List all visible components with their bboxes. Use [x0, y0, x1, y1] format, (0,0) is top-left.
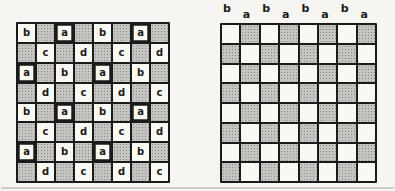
shaded-cell: [94, 123, 111, 141]
shaded-cell: [94, 84, 111, 102]
shaded-cell: [151, 24, 168, 42]
shaded-cell: [319, 25, 336, 43]
light-cell: [300, 25, 317, 43]
light-cell: [222, 104, 239, 122]
letter-cell-d: d: [75, 123, 92, 141]
shaded-cell: [132, 44, 149, 62]
light-cell: [222, 65, 239, 83]
letter-cell-b: b: [56, 64, 73, 82]
letter-cell-b: b: [18, 104, 35, 122]
letter-cell-b: b: [94, 104, 111, 122]
shaded-cell: [113, 104, 130, 122]
shaded-cell: [37, 64, 54, 82]
letter-cell-d: d: [113, 163, 130, 181]
shaded-cell: [338, 84, 355, 102]
light-cell: [241, 45, 258, 63]
shaded-cell: [75, 143, 92, 161]
letter-cell-a: a: [56, 104, 73, 122]
light-cell: [338, 25, 355, 43]
letter-cell-c: c: [37, 123, 54, 141]
shaded-cell: [300, 163, 317, 181]
light-cell: [280, 124, 297, 142]
letter-cell-d: d: [37, 84, 54, 102]
letter-cell-a: a: [56, 24, 73, 42]
light-cell: [300, 65, 317, 83]
letter-cell-b: b: [56, 143, 73, 161]
shaded-cell: [132, 163, 149, 181]
letter-cell-b: b: [18, 24, 35, 42]
shaded-cell: [222, 163, 239, 181]
light-cell: [319, 45, 336, 63]
light-cell: [261, 104, 278, 122]
light-cell: [300, 104, 317, 122]
letter-cell-b: b: [132, 143, 149, 161]
shaded-cell: [56, 84, 73, 102]
shaded-cell: [280, 104, 297, 122]
light-cell: [241, 124, 258, 142]
shaded-cell: [280, 144, 297, 162]
letter-cell-d: d: [151, 44, 168, 62]
shaded-cell: [18, 163, 35, 181]
light-cell: [300, 144, 317, 162]
shaded-cell: [56, 44, 73, 62]
shaded-cell: [18, 84, 35, 102]
shaded-cell: [113, 143, 130, 161]
letter-cell-c: c: [75, 84, 92, 102]
shaded-cell: [280, 65, 297, 83]
letter-cell-c: c: [37, 44, 54, 62]
shaded-cell: [37, 24, 54, 42]
book-figure-page: babacdcdababdcdcbabacdcdababdcdc bababab…: [0, 0, 395, 191]
light-cell: [261, 144, 278, 162]
letter-cell-c: c: [75, 163, 92, 181]
shaded-cell: [37, 143, 54, 161]
light-cell: [280, 84, 297, 102]
shaded-cell: [75, 24, 92, 42]
page-rule-line: [1, 187, 394, 189]
light-cell: [338, 104, 355, 122]
light-cell: [261, 65, 278, 83]
right-board: [220, 23, 377, 183]
shaded-cell: [261, 45, 278, 63]
light-cell: [358, 45, 375, 63]
shaded-cell: [151, 143, 168, 161]
shaded-cell: [132, 123, 149, 141]
shaded-cell: [358, 65, 375, 83]
column-label-b: b: [217, 2, 237, 21]
shaded-cell: [94, 163, 111, 181]
letter-cell-a: a: [18, 64, 35, 82]
letter-cell-c: c: [151, 84, 168, 102]
letter-cell-d: d: [113, 84, 130, 102]
letter-cell-d: d: [37, 163, 54, 181]
shaded-cell: [18, 44, 35, 62]
shaded-cell: [261, 124, 278, 142]
letter-cell-b: b: [132, 64, 149, 82]
shaded-cell: [261, 84, 278, 102]
shaded-cell: [338, 124, 355, 142]
shaded-cell: [222, 84, 239, 102]
shaded-cell: [358, 104, 375, 122]
shaded-cell: [18, 123, 35, 141]
left-board: babacdcdababdcdcbabacdcdababdcdc: [16, 22, 170, 183]
shaded-cell: [113, 64, 130, 82]
shaded-cell: [56, 163, 73, 181]
light-cell: [319, 84, 336, 102]
light-cell: [358, 124, 375, 142]
shaded-cell: [358, 144, 375, 162]
letter-cell-c: c: [113, 44, 130, 62]
light-cell: [319, 163, 336, 181]
light-cell: [280, 163, 297, 181]
letter-cell-a: a: [132, 104, 149, 122]
light-cell: [338, 65, 355, 83]
light-cell: [261, 25, 278, 43]
letter-cell-c: c: [113, 123, 130, 141]
shaded-cell: [151, 64, 168, 82]
column-label-b: b: [296, 2, 316, 21]
shaded-cell: [261, 163, 278, 181]
light-cell: [241, 163, 258, 181]
light-cell: [241, 84, 258, 102]
shaded-cell: [151, 104, 168, 122]
light-cell: [358, 84, 375, 102]
letter-cell-a: a: [18, 143, 35, 161]
light-cell: [358, 163, 375, 181]
light-cell: [319, 124, 336, 142]
